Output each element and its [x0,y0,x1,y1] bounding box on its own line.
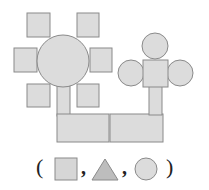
stem-right [149,86,162,115]
square-bottom-right [77,84,99,107]
square-top-left [27,13,50,37]
circle-left [118,60,144,86]
big-circle [37,35,89,87]
circle-right [167,60,193,86]
square-mid-left [14,48,37,72]
square-bottom-left [27,84,50,107]
legend-shapes [0,152,209,186]
stem-left [57,86,70,116]
square-center [143,60,168,87]
legend-circle-icon [135,158,157,180]
shape-legend: ( , , ) [0,152,209,186]
square-mid-right [90,48,112,72]
bottom-rect-right [110,114,163,142]
close-paren: ) [166,154,173,180]
separator-comma: , [81,156,86,179]
circle-top [142,33,168,59]
legend-square-icon [55,158,77,180]
bottom-rect-left [57,114,109,142]
separator-comma: , [122,156,127,179]
square-top-right [77,13,99,37]
legend-triangle-icon [92,159,118,180]
